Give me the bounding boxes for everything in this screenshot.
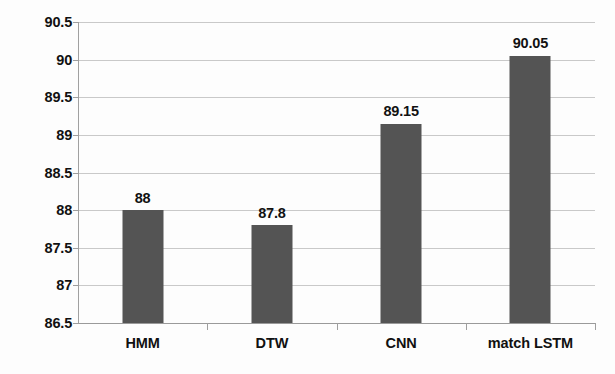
x-axis-tick-mark (337, 323, 338, 330)
x-axis-tick-mark (595, 323, 596, 330)
x-axis-category-label: HMM (125, 336, 159, 351)
bar-slot: 90.05 (466, 22, 595, 323)
y-axis-tick-label: 88 (8, 203, 72, 218)
y-axis-tick-mark (73, 60, 79, 61)
bar[interactable] (122, 210, 163, 323)
bar-value-label: 87.8 (258, 206, 285, 221)
bar[interactable] (251, 225, 292, 323)
bar[interactable] (510, 56, 551, 323)
x-axis-tick-mark (207, 323, 208, 330)
bar-value-label: 89.15 (383, 104, 418, 119)
y-axis-tick-labels: 86.58787.58888.58989.59090.5 (0, 0, 72, 374)
bar-slot: 87.8 (207, 22, 336, 323)
y-axis-tick-label: 90.5 (8, 15, 72, 30)
bar-value-label: 88 (135, 191, 151, 206)
y-axis-tick-label: 89 (8, 128, 72, 143)
y-axis-tick-mark (73, 22, 79, 23)
bar-slot: 88 (78, 22, 207, 323)
bar[interactable] (381, 124, 422, 323)
x-axis-tick-mark (466, 323, 467, 330)
y-axis-tick-label: 89.5 (8, 90, 72, 105)
y-axis-tick-label: 88.5 (8, 165, 72, 180)
y-axis-tick-mark (73, 248, 79, 249)
bar-value-label: 90.05 (513, 36, 548, 51)
y-axis-tick-label: 90 (8, 52, 72, 67)
y-axis-tick-label: 87 (8, 278, 72, 293)
bar-chart: 86.58787.58888.58989.59090.5 8887.889.15… (0, 0, 615, 374)
y-axis-tick-label: 87.5 (8, 241, 72, 256)
x-axis-category-label: match LSTM (488, 336, 573, 351)
y-axis-tick-mark (73, 173, 79, 174)
x-axis-category-label: DTW (256, 336, 289, 351)
x-axis-category-labels: HMMDTWCNNmatch LSTM (78, 336, 595, 360)
y-axis-tick-mark (73, 210, 79, 211)
y-axis-tick-mark (73, 135, 79, 136)
y-axis-tick-mark (73, 285, 79, 286)
x-axis-category-label: CNN (386, 336, 417, 351)
y-axis-tick-label: 86.5 (8, 316, 72, 331)
plot-area: 8887.889.1590.05 (78, 22, 595, 323)
y-axis-tick-mark (73, 323, 79, 324)
y-axis-tick-mark (73, 97, 79, 98)
bar-slot: 89.15 (337, 22, 466, 323)
